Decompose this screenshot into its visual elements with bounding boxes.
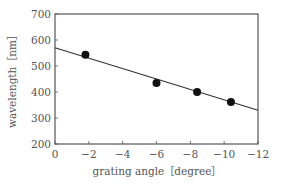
data-point <box>81 51 89 59</box>
data-point <box>153 79 161 87</box>
x-tick-label: 0 <box>52 148 59 160</box>
y-tick-label: 300 <box>31 112 51 124</box>
x-tick-label: −8 <box>183 148 198 160</box>
x-tick-label: −12 <box>247 148 269 160</box>
y-tick-label: 200 <box>31 138 51 150</box>
x-axis-title: grating angle［degree］ <box>93 165 222 177</box>
data-point <box>193 88 201 96</box>
y-axis-ticks: 200300400500600700 <box>31 8 58 150</box>
y-tick-label: 600 <box>31 34 51 46</box>
x-tick-label: −10 <box>213 148 235 160</box>
x-tick-label: −4 <box>115 148 131 160</box>
series-layer <box>55 48 258 110</box>
y-tick-label: 500 <box>31 60 51 72</box>
y-tick-label: 700 <box>31 8 51 20</box>
chart: 200300400500600700 0−2−4−6−8−10−12 grati… <box>0 0 283 184</box>
y-tick-label: 400 <box>31 86 51 98</box>
y-axis-title: wavelength［nm］ <box>6 30 18 128</box>
x-tick-label: −2 <box>81 148 96 160</box>
data-point <box>227 98 235 106</box>
x-tick-label: −6 <box>149 148 165 160</box>
